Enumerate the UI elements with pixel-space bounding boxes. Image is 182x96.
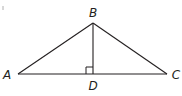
- point-label-d: D: [88, 80, 97, 92]
- vertex-label-a: A: [3, 69, 11, 81]
- vertex-label-b: B: [89, 7, 97, 19]
- vertex-label-c: C: [172, 69, 180, 81]
- triangle-diagram: B A C D: [0, 0, 182, 96]
- right-angle-marker: [86, 67, 93, 74]
- segment-bc: [93, 23, 167, 74]
- segment-ab: [18, 23, 93, 74]
